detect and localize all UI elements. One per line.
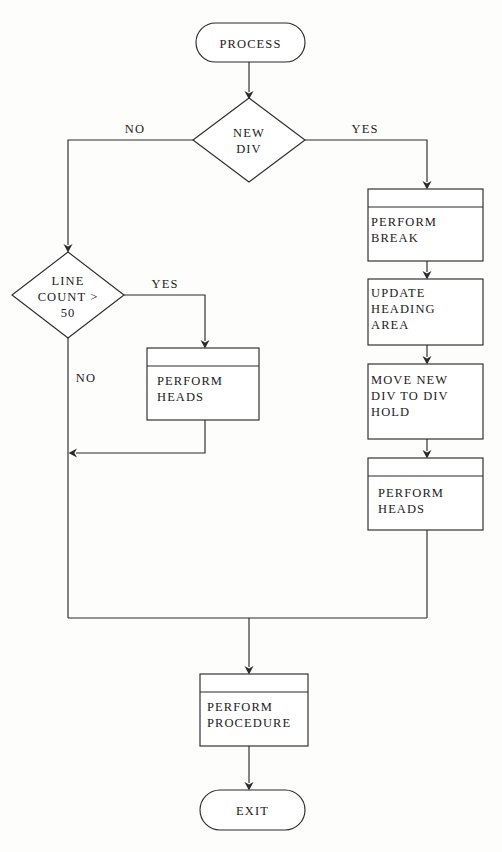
node-perform-heads-left[interactable]: PERFORM HEADS	[147, 348, 259, 420]
flowchart-svg: PROCESS NEW DIV NO YES LINE COUNT > 50 Y…	[0, 0, 502, 852]
node-perform-procedure-label-line2: PROCEDURE	[207, 716, 291, 730]
node-perform-break[interactable]: PERFORM BREAK	[368, 189, 483, 261]
connector-update-to-move	[423, 345, 432, 365]
node-perform-procedure-label-line1: PERFORM	[207, 700, 273, 714]
node-line-count-label-line2: COUNT >	[38, 290, 99, 304]
connector-break-to-update	[423, 261, 432, 280]
node-new-div-label-line1: NEW	[233, 126, 265, 140]
node-move-new-div-label-line1: MOVE NEW	[371, 373, 448, 387]
node-perform-break-label-line1: PERFORM	[371, 215, 437, 229]
node-perform-heads-left-label-line2: HEADS	[157, 390, 204, 404]
node-update-heading-label-line1: UPDATE	[371, 286, 426, 300]
connector-move-to-heads-right	[423, 439, 432, 459]
edge-label-line-count-no: NO	[76, 371, 96, 385]
node-decision-line-count[interactable]: LINE COUNT > 50	[12, 252, 124, 338]
node-line-count-label-line1: LINE	[52, 274, 85, 288]
node-new-div-label-line2: DIV	[236, 142, 262, 156]
node-start-label: PROCESS	[220, 37, 282, 51]
edge-label-new-div-no: NO	[125, 122, 145, 136]
node-line-count-label-line3: 50	[61, 306, 76, 320]
node-start-process[interactable]: PROCESS	[196, 23, 305, 62]
node-perform-heads-right-label-line2: HEADS	[378, 502, 425, 516]
edge-label-new-div-yes: YES	[352, 122, 379, 136]
node-perform-procedure[interactable]: PERFORM PROCEDURE	[200, 674, 308, 746]
node-update-heading-label-line3: AREA	[371, 318, 409, 332]
node-exit-label: EXIT	[236, 804, 269, 818]
node-perform-break-label-line2: BREAK	[371, 231, 419, 245]
node-update-heading-label-line2: HEADING	[371, 302, 436, 316]
node-move-new-div[interactable]: MOVE NEW DIV TO DIV HOLD	[368, 364, 483, 439]
node-move-new-div-label-line2: DIV TO DIV	[371, 389, 449, 403]
connector-new-div-no	[64, 140, 194, 253]
connector-bus-to-procedure	[245, 618, 254, 675]
decision-shape	[193, 98, 305, 182]
node-perform-heads-right-label-line1: PERFORM	[378, 486, 444, 500]
connector-heads-left-merge	[69, 420, 206, 458]
node-update-heading-area[interactable]: UPDATE HEADING AREA	[368, 279, 483, 345]
node-exit[interactable]: EXIT	[200, 790, 305, 830]
node-perform-heads-right[interactable]: PERFORM HEADS	[368, 458, 483, 530]
flowchart-canvas: PROCESS NEW DIV NO YES LINE COUNT > 50 Y…	[0, 0, 502, 852]
node-perform-heads-left-label-line1: PERFORM	[157, 374, 223, 388]
edge-label-line-count-yes: YES	[152, 277, 179, 291]
node-move-new-div-label-line3: HOLD	[371, 405, 410, 419]
connector-procedure-to-exit	[245, 746, 254, 791]
connector-new-div-yes	[305, 140, 432, 190]
connector-start-to-new-div	[245, 62, 254, 100]
node-decision-new-div[interactable]: NEW DIV	[193, 98, 305, 182]
connector-line-count-yes	[124, 295, 210, 349]
